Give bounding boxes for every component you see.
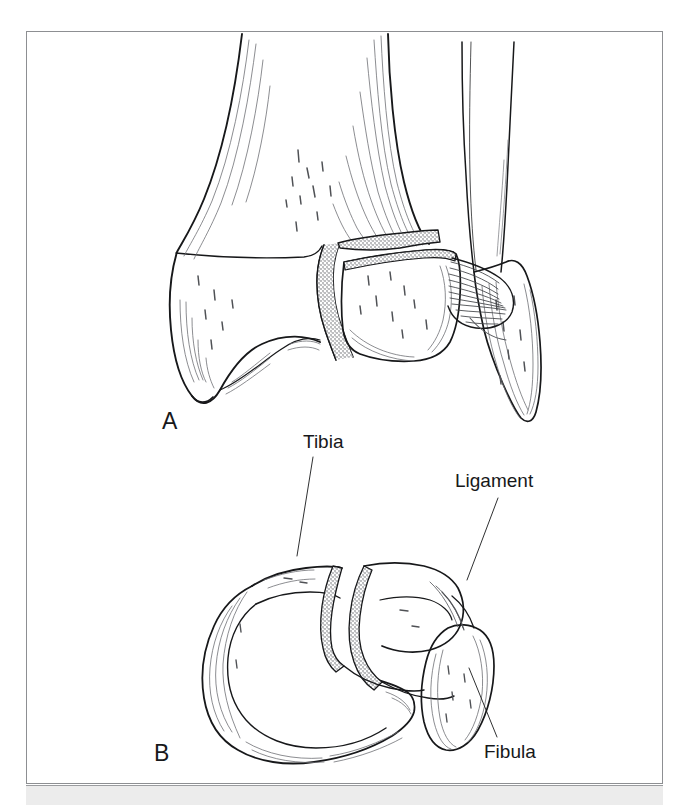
panel-letter-b: B (154, 742, 169, 765)
panel-letter-a: A (162, 410, 177, 433)
figure-root: A B Tibia Ligament Fibula (0, 0, 685, 805)
page-footer-strip (26, 785, 663, 805)
label-fibula: Fibula (484, 742, 536, 761)
label-tibia: Tibia (303, 432, 343, 451)
label-ligament: Ligament (455, 471, 533, 490)
plate-border (26, 31, 663, 784)
